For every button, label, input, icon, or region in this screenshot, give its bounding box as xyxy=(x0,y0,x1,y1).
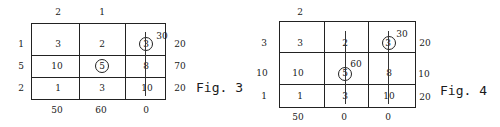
fig4-allocation-label-2: 60 xyxy=(344,59,368,69)
fig3-divider xyxy=(125,23,126,100)
fig3-cell-r2c3: 8 xyxy=(134,61,158,71)
fig4-divider xyxy=(368,21,369,108)
fig4-row-potential-2: 10 xyxy=(250,68,274,78)
fig3-divider xyxy=(79,23,80,100)
fig4-supply-2: 10 xyxy=(412,69,436,79)
fig4-cell-r3c3: 10 xyxy=(377,91,401,101)
fig3-demand-1: 50 xyxy=(45,105,69,115)
fig4-demand-2: 0 xyxy=(332,112,356,122)
fig4-col-potential-1: 2 xyxy=(288,7,312,17)
fig3-supply-2: 70 xyxy=(168,61,192,71)
fig4-cell-r1c1: 3 xyxy=(288,38,312,48)
fig3-row-potential-3: 2 xyxy=(9,83,33,93)
fig3-demand-2: 60 xyxy=(89,105,113,115)
fig4-caption: Fig. 4 xyxy=(440,84,487,98)
fig4-cell-r2c3: 8 xyxy=(377,68,401,78)
fig4-divider xyxy=(279,52,416,53)
fig3-basic-cell-circle-icon xyxy=(95,59,109,73)
fig3-row-potential-2: 5 xyxy=(9,61,33,71)
fig4-demand-3: 0 xyxy=(376,112,400,122)
fig3-cell-r1c1: 3 xyxy=(46,39,70,49)
fig4-cycle-line xyxy=(388,31,389,104)
fig3-row-potential-1: 1 xyxy=(9,39,33,49)
fig4-demand-1: 50 xyxy=(286,112,310,122)
fig4-divider xyxy=(324,21,325,108)
fig4-supply-3: 20 xyxy=(413,92,437,102)
fig3-col-potential-2: 1 xyxy=(90,7,114,17)
fig4-row-potential-1: 3 xyxy=(252,38,276,48)
fig3-col-potential-1: 2 xyxy=(46,7,70,17)
fig3-cycle-line xyxy=(145,32,146,96)
fig3-cell-r3c3: 10 xyxy=(135,83,159,93)
fig4-divider xyxy=(279,84,416,85)
fig3-cell-r3c1: 1 xyxy=(46,83,70,93)
fig3-caption: Fig. 3 xyxy=(196,81,243,95)
fig3-cell-r3c2: 3 xyxy=(90,83,114,93)
fig4-row-potential-3: 1 xyxy=(252,91,276,101)
fig3-supply-1: 20 xyxy=(168,39,192,49)
fig4-allocation-label-1: 30 xyxy=(390,29,414,39)
fig3-supply-3: 20 xyxy=(168,83,192,93)
fig3-cell-r2c1: 10 xyxy=(45,61,69,71)
fig3-cell-r1c2: 2 xyxy=(90,39,114,49)
fig4-supply-1: 20 xyxy=(413,38,437,48)
fig4-cell-r3c1: 1 xyxy=(288,91,312,101)
fig4-cell-r2c1: 10 xyxy=(286,68,310,78)
fig3-demand-3: 0 xyxy=(134,105,158,115)
